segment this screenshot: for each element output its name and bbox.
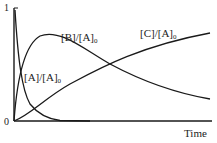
axes (14, 8, 212, 121)
label-B: [B]/[A]0 (61, 32, 98, 45)
y-tick-0: 0 (4, 117, 9, 127)
x-axis-label: Time (184, 128, 207, 139)
label-A: [A]/[A]0 (24, 72, 61, 85)
y-tick-1: 1 (4, 3, 9, 13)
label-C: [C]/[A]0 (140, 28, 177, 41)
curve-A (15, 10, 90, 121)
